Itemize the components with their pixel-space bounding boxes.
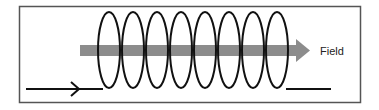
solenoid-diagram: Field — [0, 0, 379, 110]
field-label: Field — [320, 45, 344, 57]
current-wire — [26, 82, 331, 96]
